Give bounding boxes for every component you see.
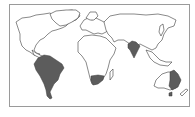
southeast-asia [146, 50, 172, 66]
eastern-australia [169, 70, 181, 90]
tasmania [169, 92, 172, 96]
southern-africa [91, 75, 104, 85]
world-map [0, 0, 195, 117]
new-zealand [180, 89, 188, 96]
madagascar [110, 69, 113, 80]
asia [104, 14, 176, 50]
south-america [34, 55, 64, 99]
